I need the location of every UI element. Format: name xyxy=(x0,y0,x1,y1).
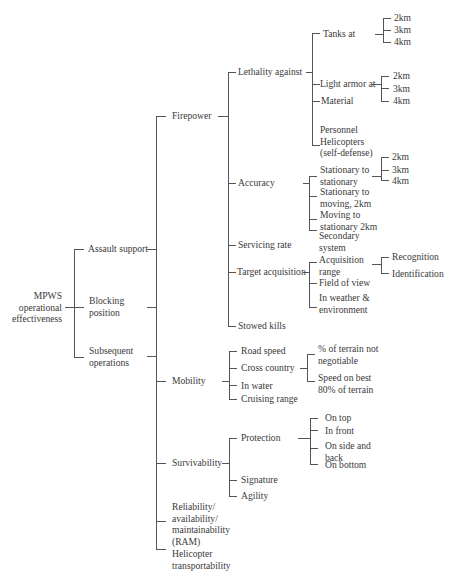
stationary-range-3km: 3km xyxy=(392,164,409,176)
acquisition-range: Acquisition range xyxy=(319,254,364,277)
target-acquisition: Target acquisition xyxy=(237,266,306,278)
stationary-to-moving: Stationary to moving, 2km xyxy=(320,186,371,209)
protection-on-bottom: On bottom xyxy=(325,459,366,471)
mission-assault-support: Assault support xyxy=(88,243,148,255)
criterion-mobility: Mobility xyxy=(172,375,206,387)
agility: Agility xyxy=(241,490,268,502)
light-armor-at: Light armor at xyxy=(320,78,375,90)
protection-on-top: On top xyxy=(325,412,351,424)
material: Material xyxy=(321,95,354,107)
mission-subsequent-operations: Subsequent operations xyxy=(89,345,133,368)
light-armor-range-4km: 4km xyxy=(393,95,410,107)
in-water: In water xyxy=(241,380,273,392)
stationary-range-2km: 2km xyxy=(392,151,409,163)
recognition: Recognition xyxy=(392,251,439,263)
secondary-system: Secondary system xyxy=(319,230,360,253)
personnel-helicopters: Personnel Helicopters (self-defense) xyxy=(320,124,373,159)
mission-blocking-position: Blocking position xyxy=(89,295,124,318)
criterion-helicopter-transportability: Helicopter transportability xyxy=(172,548,231,571)
criterion-survivability: Survivability xyxy=(172,457,222,469)
signature: Signature xyxy=(241,474,278,486)
tanks-at: Tanks at xyxy=(323,28,355,40)
stowed-kills: Stowed kills xyxy=(238,320,286,332)
hierarchy-diagram: MPWS operational effectiveness Assault s… xyxy=(0,0,455,582)
connector-lines xyxy=(0,0,455,582)
root-node: MPWS operational effectiveness xyxy=(12,290,62,325)
criterion-ram: Reliability/ availability/ maintainabili… xyxy=(172,501,230,547)
light-armor-range-2km: 2km xyxy=(393,70,410,82)
criterion-firepower: Firepower xyxy=(172,110,211,122)
field-of-view: Field of view xyxy=(319,277,370,289)
identification: Identification xyxy=(392,268,444,280)
tanks-range-3km: 3km xyxy=(394,24,411,36)
accuracy: Accuracy xyxy=(238,177,275,189)
tanks-range-4km: 4km xyxy=(394,36,411,48)
cross-country: Cross country xyxy=(241,362,295,374)
servicing-rate: Servicing rate xyxy=(238,239,292,251)
cruising-range: Cruising range xyxy=(241,393,298,405)
terrain-not-negotiable: % of terrain not negotiable xyxy=(318,343,378,366)
tanks-range-2km: 2km xyxy=(394,12,411,24)
lethality-against: Lethality against xyxy=(238,66,302,78)
in-weather-environment: In weather & environment xyxy=(319,292,370,315)
road-speed: Road speed xyxy=(241,345,286,357)
speed-on-best-terrain: Speed on best 80% of terrain xyxy=(318,372,373,395)
light-armor-range-3km: 3km xyxy=(393,83,410,95)
moving-to-stationary: Moving to stationary 2km xyxy=(320,209,377,232)
stationary-to-stationary: Stationary to stationary xyxy=(320,164,369,187)
protection-in-front: In front xyxy=(325,425,354,437)
protection: Protection xyxy=(241,432,280,444)
stationary-range-4km: 4km xyxy=(392,175,409,187)
